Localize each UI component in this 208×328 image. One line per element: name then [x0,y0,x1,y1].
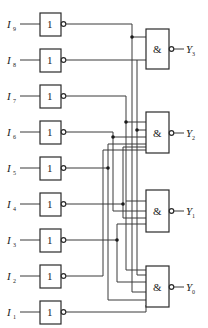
inverter-i9: I 9 1 [6,13,66,36]
inversion-bubble-icon [61,94,66,99]
inverter-i2: I 2 1 [6,265,66,288]
inverter-i6: I 6 1 [6,121,66,144]
input-label: I [6,234,12,246]
input-label: I [6,162,12,174]
input-subscript: 5 [13,170,16,176]
inverter-i3: I 3 1 [6,229,66,252]
inversion-bubble-icon [169,209,174,214]
nand-gate-y1: & Y 1 [146,190,195,232]
gate-symbol: & [153,127,162,139]
inversion-bubble-icon [61,274,66,279]
inversion-bubble-icon [61,166,66,171]
input-label: I [6,90,12,102]
output-subscript: 2 [192,135,195,141]
output-subscript: 1 [192,213,195,219]
input-subscript: 9 [13,26,16,32]
output-subscript: 0 [192,289,195,295]
inversion-bubble-icon [61,130,66,135]
inversion-bubble-icon [169,285,174,290]
junction-dot [115,238,119,242]
input-label: I [6,270,12,282]
priority-encoder-diagram: I 9 1 I 8 1 I 7 1 I 6 1 I 5 1 I [0,0,208,328]
input-subscript: 8 [13,62,16,68]
gate-symbol: & [153,205,162,217]
nand-gate-y2: & Y 2 [146,112,195,153]
input-label: I [6,126,12,138]
inversion-bubble-icon [61,238,66,243]
wiring [66,24,146,312]
inverter-i7: I 7 1 [6,85,66,108]
input-subscript: 3 [13,242,16,248]
gate-symbol: 1 [47,126,53,138]
input-label: I [6,198,12,210]
inversion-bubble-icon [61,202,66,207]
gate-symbol: 1 [47,162,53,174]
junction-dot [130,35,134,39]
inverter-i4: I 4 1 [6,193,66,216]
gate-symbol: 1 [47,270,53,282]
inversion-bubble-icon [61,310,66,315]
gate-symbol: 1 [47,198,53,210]
input-label: I [6,54,12,66]
inversion-bubble-icon [169,47,174,52]
input-subscript: 6 [13,134,16,140]
gate-symbol: 1 [47,234,53,246]
inversion-bubble-icon [169,131,174,136]
input-subscript: 2 [13,278,16,284]
junction-dot [124,120,128,124]
input-label: I [6,18,12,30]
gate-symbol: & [153,281,162,293]
input-subscript: 4 [13,206,16,212]
junction-dot [106,166,110,170]
input-subscript: 7 [13,98,16,104]
gate-symbol: 1 [47,54,53,66]
junction-dot [135,128,139,132]
gate-symbol: 1 [47,306,53,318]
inverter-i1: I 1 1 [6,301,66,324]
input-subscript: 1 [13,314,16,320]
gate-symbol: & [153,43,162,55]
gate-symbol: 1 [47,90,53,102]
nand-gate-y3: & Y 3 [146,29,195,69]
input-label: I [6,306,12,318]
junction-dot [111,135,115,139]
gate-symbol: 1 [47,18,53,30]
inversion-bubble-icon [61,58,66,63]
inverter-i5: I 5 1 [6,157,66,180]
output-subscript: 3 [192,51,195,57]
nand-gate-y0: & Y 0 [146,266,195,307]
inversion-bubble-icon [61,22,66,27]
junction-dot [121,202,125,206]
inverter-i8: I 8 1 [6,49,66,72]
